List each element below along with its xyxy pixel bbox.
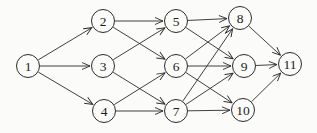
node-6: 6 (165, 55, 188, 78)
node-9: 9 (233, 55, 256, 78)
node-8: 8 (229, 7, 252, 30)
graph-diagram: 1234567891011 (0, 0, 317, 133)
node-10: 10 (232, 99, 255, 122)
node-label-9: 9 (241, 59, 248, 74)
edge-1-2 (38, 28, 92, 60)
edge-1-4 (38, 72, 92, 104)
node-11: 11 (279, 53, 302, 76)
edge-10-11 (252, 73, 281, 102)
node-label-2: 2 (100, 14, 107, 29)
node-4: 4 (93, 100, 116, 123)
node-1: 1 (17, 55, 40, 78)
graph-canvas: 1234567891011 (0, 0, 317, 133)
node-label-3: 3 (100, 59, 107, 74)
edge-9-11 (256, 65, 277, 66)
node-label-5: 5 (173, 14, 180, 29)
node-label-6: 6 (173, 59, 180, 74)
node-label-7: 7 (173, 104, 180, 119)
nodes-layer: 1234567891011 (17, 7, 302, 123)
node-label-8: 8 (237, 11, 244, 26)
edge-5-9 (186, 28, 233, 59)
edge-3-7 (113, 72, 165, 104)
node-label-1: 1 (25, 59, 32, 74)
node-7: 7 (165, 100, 188, 123)
node-2: 2 (92, 10, 115, 33)
edge-7-9 (186, 73, 233, 104)
node-label-4: 4 (101, 104, 108, 119)
node-label-11: 11 (284, 57, 297, 72)
node-label-10: 10 (236, 103, 250, 118)
node-3: 3 (92, 55, 115, 78)
edge-7-10 (188, 110, 230, 111)
edge-6-10 (186, 73, 232, 103)
edge-5-8 (188, 19, 227, 21)
edge-8-11 (249, 26, 281, 55)
node-5: 5 (165, 10, 188, 33)
